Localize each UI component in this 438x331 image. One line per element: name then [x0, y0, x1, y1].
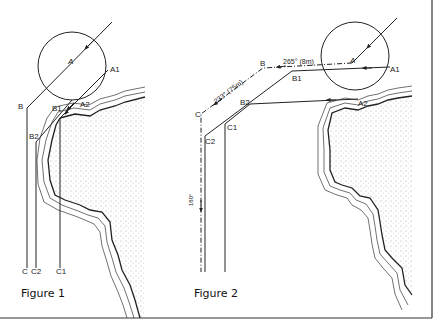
figure-2: A A1 A2 B B1 B2 C C1 C2 265° (8m) 233° (…	[188, 18, 412, 310]
label-c: C	[22, 267, 28, 276]
danger-circle	[38, 32, 106, 100]
figure-1: A A1 A2 B B1 B2 C C2 C1 Figure 1	[18, 22, 145, 318]
track-a-b	[27, 22, 112, 108]
label-c1: C1	[227, 123, 238, 132]
label-c: C	[195, 110, 201, 119]
label-c2: C2	[31, 267, 42, 276]
label-b2: B2	[240, 98, 250, 107]
leg-265-label: 265° (8m)	[283, 58, 314, 66]
label-c1: C1	[56, 267, 67, 276]
figure-1-caption: Figure 1	[21, 287, 65, 300]
figure-2-caption: Figure 2	[194, 287, 238, 300]
label-b: B	[260, 59, 265, 68]
label-a2: A2	[358, 99, 368, 108]
label-a2: A2	[80, 100, 90, 109]
track-arrow	[86, 40, 94, 48]
label-b1: B1	[52, 104, 62, 113]
label-b: B	[18, 102, 23, 111]
label-a1: A1	[110, 65, 120, 74]
leg-180-label: 180°	[188, 193, 194, 206]
label-c2: C2	[205, 137, 216, 146]
label-a1: A1	[390, 65, 400, 74]
label-b1: B1	[292, 74, 302, 83]
navigation-diagram: A A1 A2 B B1 B2 C C2 C1 Figure 1 A	[0, 0, 438, 331]
track-arrow	[368, 39, 376, 47]
label-b2: B2	[29, 132, 39, 141]
